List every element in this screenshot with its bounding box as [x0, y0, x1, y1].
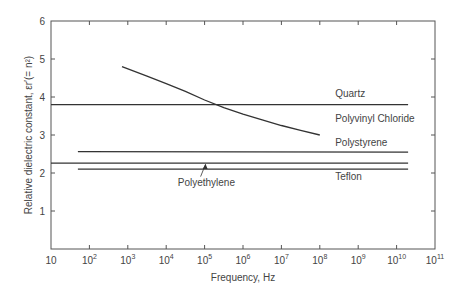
plot-frame	[51, 21, 435, 249]
x-axis-label: Frequency, Hz	[211, 272, 275, 283]
y-tick-label: 4	[39, 92, 45, 103]
label-teflon: Teflon	[335, 171, 362, 182]
series-labels: QuartzPolyvinyl ChloridePolystyreneTeflo…	[335, 88, 415, 182]
y-tick-label: 6	[39, 16, 45, 27]
x-tick-label: 106	[235, 253, 250, 266]
label-polyethylene: Polyethylene	[178, 177, 236, 188]
label-quartz: Quartz	[335, 88, 365, 99]
x-tick-label: 1010	[387, 253, 406, 266]
y-tick-label: 2	[39, 168, 45, 179]
y-tick-label: 5	[39, 54, 45, 65]
x-tick-label: 103	[120, 253, 135, 266]
dielectric-constant-chart: 1010210310410510610710810910101011 12345…	[0, 0, 463, 295]
y-axis-label: Relative dielectric constant, εr′(= n²)	[23, 56, 34, 214]
y-tick-label: 3	[39, 130, 45, 141]
x-tick-label: 108	[312, 253, 327, 266]
x-tick-label: 104	[159, 253, 174, 266]
x-tick-label: 10	[45, 255, 57, 266]
y-tick-label: 1	[39, 206, 45, 217]
series-polyvinyl-chloride	[122, 67, 320, 135]
label-polystyrene: Polystyrene	[335, 137, 388, 148]
x-tick-label: 1011	[426, 253, 444, 266]
x-tick-label: 102	[82, 253, 97, 266]
x-tick-label: 105	[197, 253, 212, 266]
annotations: Polyethylene	[178, 164, 236, 188]
label-polyvinyl-chloride: Polyvinyl Chloride	[335, 113, 415, 124]
x-tick-label: 107	[274, 253, 289, 266]
x-tick-label: 109	[351, 253, 366, 266]
